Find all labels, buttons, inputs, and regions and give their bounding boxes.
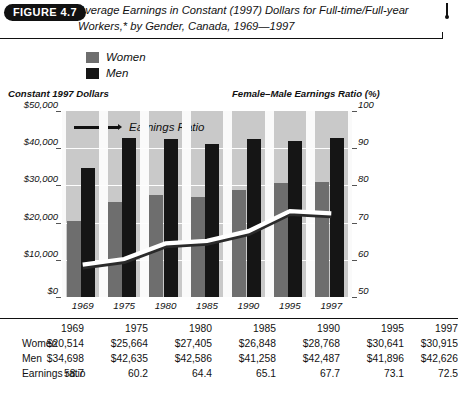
table-cell: $42,635 xyxy=(86,353,148,364)
y-axis-left-tick-label: $50,000 xyxy=(2,99,58,110)
y-axis-left-tick-label: $40,000 xyxy=(2,136,58,147)
table-cell: $27,405 xyxy=(150,338,212,349)
y-axis-right-tick-label: 50 xyxy=(358,285,369,296)
table-cell: $26,848 xyxy=(214,338,276,349)
y-axis-right-title: Female–Male Earnings Ratio (%) xyxy=(232,88,380,99)
y-axis-left-title: Constant 1997 Dollars xyxy=(8,88,109,99)
figure-title: Average Earnings in Constant (1997) Doll… xyxy=(78,3,430,34)
x-axis-tick-label: 1985 xyxy=(187,300,227,311)
header-divider xyxy=(0,38,443,39)
table-cell: $41,258 xyxy=(214,353,276,364)
table-cell: $42,626 xyxy=(396,353,458,364)
table-row: Earnings ratio58.760.264.465.167.773.172… xyxy=(0,368,458,383)
table-header-cell: 1997 xyxy=(396,323,458,334)
table-header-cell: 1969 xyxy=(22,323,84,334)
y-axis-left-tick-label: $0 xyxy=(2,285,58,296)
x-axis-year-labels: 1969197519801985199019951997 xyxy=(62,300,352,316)
table-row: Women$20,514$25,664$27,405$26,848$28,768… xyxy=(0,338,458,353)
x-axis-tick-label: 1990 xyxy=(228,300,268,311)
plot-canvas: Earnings Ratio xyxy=(62,111,352,297)
chart-legend: Women Men xyxy=(86,50,146,82)
legend-item-women: Women xyxy=(86,50,146,64)
table-header-cell: 1975 xyxy=(86,323,148,334)
figure-header: FIGURE 4.7 Average Earnings in Constant … xyxy=(0,2,458,42)
x-axis-tick-label: 1969 xyxy=(63,300,103,311)
table-cell: $28,768 xyxy=(278,338,340,349)
table-header-row: 1969197519801985199019951997 xyxy=(0,323,458,338)
table-header-cell: 1990 xyxy=(278,323,340,334)
y-axis-left-tick xyxy=(56,111,61,112)
table-cell: $30,641 xyxy=(342,338,404,349)
x-axis-tick-label: 1975 xyxy=(104,300,144,311)
legend-item-men: Men xyxy=(86,66,146,80)
x-axis-tick-label: 1995 xyxy=(270,300,310,311)
y-axis-left-tick-label: $10,000 xyxy=(2,248,58,259)
table-cell: $30,915 xyxy=(396,338,458,349)
y-axis-left-tick-label: $20,000 xyxy=(2,211,58,222)
y-axis-right-tick xyxy=(352,185,357,186)
table-cell: $34,698 xyxy=(22,353,84,364)
y-axis-left-labels: $50,000$40,000$30,000$20,000$10,000$0 xyxy=(0,105,58,305)
y-axis-right-tick xyxy=(352,111,357,112)
table-cell: $42,487 xyxy=(278,353,340,364)
table-top-divider xyxy=(0,318,458,319)
y-axis-left-tick xyxy=(56,223,61,224)
earnings-ratio-line-stroke xyxy=(83,211,332,265)
header-divider-endcap xyxy=(442,32,443,39)
y-axis-right-tick-label: 90 xyxy=(358,136,369,147)
figure-number-badge: FIGURE 4.7 xyxy=(4,4,86,21)
table-cell: $25,664 xyxy=(86,338,148,349)
data-table: 1969197519801985199019951997Women$20,514… xyxy=(0,323,458,383)
y-axis-right-tick xyxy=(352,223,357,224)
y-axis-right-tick-label: 60 xyxy=(358,248,369,259)
table-cell: 67.7 xyxy=(278,368,340,379)
table-cell: $41,896 xyxy=(342,353,404,364)
y-axis-right-tick-label: 100 xyxy=(358,99,374,110)
table-cell: 58.7 xyxy=(22,368,84,379)
y-axis-left-tick-label: $30,000 xyxy=(2,173,58,184)
y-axis-left-tick xyxy=(56,297,61,298)
table-cell: 72.5 xyxy=(396,368,458,379)
legend-label-women: Women xyxy=(106,51,146,63)
table-row: Men$34,698$42,635$42,586$41,258$42,487$4… xyxy=(0,353,458,368)
table-header-cell: 1995 xyxy=(342,323,404,334)
earnings-ratio-line xyxy=(62,111,352,297)
table-cell: 65.1 xyxy=(214,368,276,379)
y-axis-right-tick-label: 70 xyxy=(358,211,369,222)
y-axis-right-tick xyxy=(352,297,357,298)
y-axis-left-tick xyxy=(56,185,61,186)
legend-swatch-women-icon xyxy=(86,52,99,63)
y-axis-right-tick xyxy=(352,148,357,149)
legend-label-men: Men xyxy=(106,67,128,79)
y-axis-left-tick xyxy=(56,260,61,261)
y-axis-right-labels: 1009080706050 xyxy=(358,105,398,305)
table-header-cell: 1985 xyxy=(214,323,276,334)
y-axis-right-tick-label: 80 xyxy=(358,173,369,184)
x-axis-tick-label: 1997 xyxy=(311,300,351,311)
table-cell: 60.2 xyxy=(86,368,148,379)
legend-swatch-men-icon xyxy=(86,68,99,79)
table-header-cell: 1980 xyxy=(150,323,212,334)
x-axis-tick-label: 1980 xyxy=(146,300,186,311)
table-cell: 64.4 xyxy=(150,368,212,379)
y-axis-left-tick xyxy=(56,148,61,149)
page-marker-dot-icon xyxy=(445,15,449,19)
y-axis-right-tick xyxy=(352,260,357,261)
table-cell: 73.1 xyxy=(342,368,404,379)
table-cell: $20,514 xyxy=(22,338,84,349)
table-cell: $42,586 xyxy=(150,353,212,364)
